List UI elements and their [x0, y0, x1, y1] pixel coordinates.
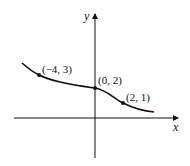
point-label-0-2: (0, 2)	[98, 74, 122, 87]
point-label-neg4-3: (−4, 3)	[42, 63, 72, 76]
point-0-2	[93, 86, 97, 90]
point-2-1	[121, 101, 125, 105]
y-axis-label: y	[83, 9, 90, 23]
x-axis-label: x	[172, 120, 179, 134]
graph: x y (−4, 3) (0, 2) (2, 1)	[0, 0, 190, 166]
point-label-2-1: (2, 1)	[126, 91, 150, 104]
point-neg4-3	[37, 73, 41, 77]
